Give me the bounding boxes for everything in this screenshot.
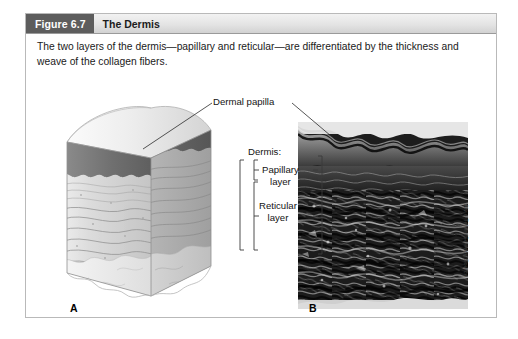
figure-header: Figure 6.7 The Dermis [26,14,496,34]
label-papillary-layer: Papillary layer [262,164,299,188]
figure-artwork: Alvin Telser/Science Source [26,76,496,318]
figure-box: Figure 6.7 The Dermis The two layers of … [25,13,497,318]
skin-block-diagram [59,98,229,313]
label-dermal-papilla: Dermal papilla [213,96,274,108]
figure-caption: The two layers of the dermis—papillary a… [37,40,469,69]
label-dermis: Dermis: [248,146,281,158]
label-reticular-layer: Reticular layer [259,200,297,224]
panel-letter-a: A [70,302,78,314]
figure-number-label: Figure 6.7 [26,14,94,33]
label-papillary-line2: layer [262,176,299,188]
label-reticular-line1: Reticular [259,200,297,212]
label-papillary-line1: Papillary [262,164,299,176]
figure-title: The Dermis [94,14,496,33]
label-reticular-line2: layer [259,212,297,224]
dermis-micrograph [298,122,468,309]
panel-letter-b: B [309,302,317,314]
photo-credit: Alvin Telser/Science Source [463,204,469,277]
